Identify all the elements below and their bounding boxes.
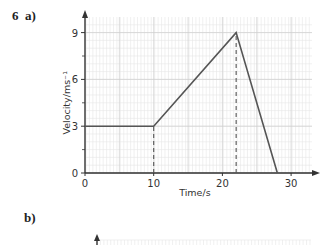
y-tick-label: 9 [72,28,78,39]
y-axis-b-arrow-icon [94,234,100,241]
x-tick-label: 10 [147,178,160,189]
y-axis-arrow-icon [82,10,88,18]
y-tick-label: 0 [72,168,78,179]
x-tick-label: 20 [216,178,229,189]
x-tick-label: 30 [285,178,298,189]
x-axis-label: Time/s [178,187,210,198]
y-tick-label: 3 [72,121,78,132]
x-axis-arrow-icon [312,170,320,176]
y-tick-label: 6 [72,74,78,85]
x-tick-label: 0 [82,178,88,189]
velocity-time-chart: 03690102030Time/sVelocity/ms⁻¹ [0,0,324,245]
y-axis-label: Velocity/ms⁻¹ [61,71,72,135]
